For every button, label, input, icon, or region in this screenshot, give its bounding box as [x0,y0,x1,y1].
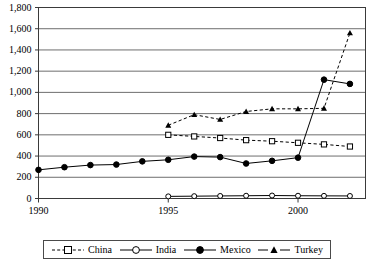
data-point [347,81,353,87]
data-point [62,164,68,170]
x-tick-label: 1990 [9,206,69,216]
data-point [243,108,249,113]
legend-label-turkey: Turkey [294,245,323,255]
data-point [347,30,353,35]
y-tick-label: 400 [0,151,32,161]
y-tick-label: 1,000 [0,87,32,97]
legend-item-china[interactable]: China [51,244,112,256]
data-point [217,154,223,160]
data-point [191,112,197,117]
data-point [321,142,326,147]
data-point [140,159,146,165]
data-point [295,140,300,145]
legend-marker-india-icon [119,244,153,256]
data-point [295,155,301,161]
legend-marker-china-icon [51,244,85,256]
data-point [321,193,326,198]
x-tick-label: 2000 [268,206,328,216]
data-point [218,193,223,198]
legend-item-mexico[interactable]: Mexico [183,244,251,256]
data-point [269,139,274,144]
data-point [269,158,275,164]
legend-item-india[interactable]: India [119,244,177,256]
data-point [243,161,249,167]
line-chart: 02004006008001,0001,2001,4001,6001,800 1… [0,0,377,267]
data-point [321,77,327,83]
y-tick-label: 1,400 [0,45,32,55]
y-tick-label: 0 [0,194,32,204]
data-point [166,132,171,137]
data-point [296,193,301,198]
y-tick-label: 1,200 [0,66,32,76]
plot-area [0,0,377,267]
data-point [270,193,275,198]
data-point [347,193,352,198]
legend-marker-mexico-icon [183,244,217,256]
data-point [347,144,352,149]
data-point [165,122,171,127]
data-point [165,157,171,163]
series-layer [36,30,353,199]
data-point [269,106,275,111]
data-point [192,194,197,199]
legend-item-turkey[interactable]: Turkey [257,244,323,256]
legend-label-india: India [156,245,177,255]
legend-label-mexico: Mexico [220,245,251,255]
data-point [191,154,197,160]
data-point [244,193,249,198]
legend-marker-turkey-icon [257,244,291,256]
legend-label-china: China [88,245,112,255]
data-point [244,138,249,143]
y-tick-label: 1,600 [0,24,32,34]
y-tick-label: 200 [0,172,32,182]
chart-legend: China India Mexico Turkey [43,240,331,259]
data-point [192,134,197,139]
series-mexico [36,77,353,173]
data-point [36,167,42,173]
data-point [218,135,223,140]
data-point [88,162,94,168]
y-tick-label: 800 [0,109,32,119]
data-point [114,162,120,168]
y-tick-label: 600 [0,130,32,140]
y-tick-label: 1,800 [0,3,32,13]
data-point [166,194,171,199]
x-tick-label: 1995 [138,206,198,216]
